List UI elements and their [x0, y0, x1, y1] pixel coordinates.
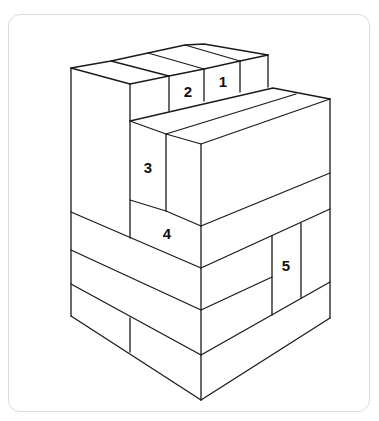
block-label-1: 1 — [219, 73, 227, 90]
block-label-4: 4 — [163, 225, 172, 242]
block-label-2: 2 — [184, 83, 192, 100]
block-stack-diagram: 1 2 3 4 5 — [0, 0, 379, 421]
block-edges — [71, 44, 330, 400]
block-label-5: 5 — [282, 257, 290, 274]
block-label-3: 3 — [144, 159, 152, 176]
